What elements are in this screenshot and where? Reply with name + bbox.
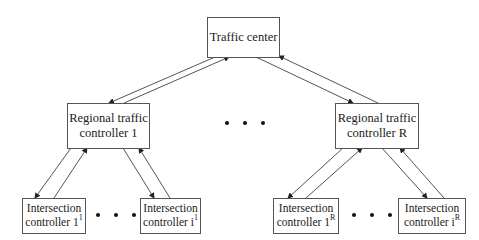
- hierarchical-traffic-control-diagram: Traffic center Regional traffic controll…: [0, 0, 479, 240]
- intersection-controller-i-R-line1: Intersection: [405, 202, 459, 216]
- intersection-controller-i-1-line1: Intersection: [143, 202, 197, 216]
- intersection-ellipsis-left: [96, 213, 136, 217]
- intersection-controller-i-R-box: Intersection controller iR: [398, 198, 466, 234]
- ellipsis-dot-icon: [352, 213, 356, 217]
- ellipsis-dot-icon: [243, 121, 247, 125]
- intersection-controller-i-1-line2: controller i1: [143, 216, 198, 230]
- intersection-controller-1-R-line1: Intersection: [279, 202, 333, 216]
- arrow-rc1-to-ici1: [123, 148, 154, 198]
- ellipsis-dot-icon: [132, 213, 136, 217]
- regional-controller-1-box: Regional traffic controller 1: [67, 103, 150, 149]
- intersection-controller-1-1-box: Intersection controller 11: [22, 198, 86, 234]
- regional-controller-R-line2: controller R: [347, 126, 407, 141]
- ellipsis-dot-icon: [370, 213, 374, 217]
- regional-controller-R-line1: Regional traffic: [338, 111, 417, 126]
- regional-ellipsis: [225, 121, 265, 125]
- arrow-rc1-to-ic11: [35, 148, 71, 198]
- intersection-controller-i-R-line2: controller iR: [404, 216, 460, 230]
- regional-controller-1-line2: controller 1: [80, 126, 138, 141]
- arrow-ici1-to-rc1: [139, 148, 170, 198]
- ellipsis-dot-icon: [261, 121, 265, 125]
- arrow-rc1-to-tc: [124, 57, 229, 103]
- intersection-controller-1-R-box: Intersection controller 1R: [273, 198, 339, 234]
- regional-controller-R-box: Regional traffic controller R: [335, 103, 419, 149]
- ellipsis-dot-icon: [225, 121, 229, 125]
- intersection-controller-1-R-line2: controller 1R: [277, 216, 336, 230]
- ellipsis-dot-icon: [388, 213, 392, 217]
- regional-controller-1-line1: Regional traffic: [69, 111, 148, 126]
- arrow-ic1R-to-rcR: [306, 148, 362, 198]
- arrow-rcR-to-tc: [279, 56, 378, 103]
- intersection-ellipsis-right: [352, 213, 392, 217]
- ellipsis-dot-icon: [114, 213, 118, 217]
- arrow-ic11-to-rc1: [54, 148, 87, 198]
- intersection-controller-1-1-line2: controller 11: [25, 216, 82, 230]
- intersection-controller-1-1-line1: Intersection: [27, 202, 81, 216]
- traffic-center-label: Traffic center: [210, 30, 278, 45]
- arrow-tc-to-rcR: [256, 57, 353, 103]
- arrow-rcR-to-iciR: [382, 148, 427, 198]
- ellipsis-dot-icon: [96, 213, 100, 217]
- traffic-center-box: Traffic center: [207, 17, 280, 58]
- arrow-iciR-to-rcR: [400, 148, 444, 198]
- intersection-controller-i-1-box: Intersection controller i1: [140, 198, 201, 234]
- arrow-tc-to-rc1: [109, 57, 215, 103]
